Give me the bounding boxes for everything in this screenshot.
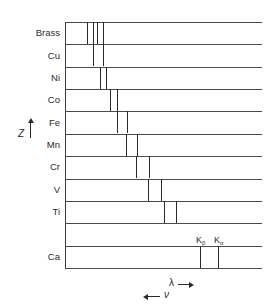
emission-line: [148, 179, 149, 201]
emission-line: [97, 22, 98, 44]
row-divider: [65, 22, 262, 23]
row-divider: [65, 111, 262, 112]
emission-line: [161, 179, 162, 201]
row-divider: [65, 179, 262, 180]
emission-line: [93, 44, 94, 66]
row-divider: [65, 246, 262, 247]
emission-line: [127, 111, 128, 133]
emission-line: [106, 67, 107, 89]
emission-line: [103, 22, 104, 44]
emission-line: [103, 44, 104, 66]
emission-line: [176, 201, 177, 223]
left-axis-line: [65, 22, 66, 268]
emission-line: [149, 156, 150, 178]
row-divider: [65, 67, 262, 68]
emission-line: [110, 89, 111, 111]
emission-line: [164, 201, 165, 223]
row-divider: [65, 223, 262, 224]
row-divider: [65, 134, 262, 135]
element-label: Brass: [0, 28, 60, 38]
nu-arrow-icon: [147, 296, 160, 297]
z-axis-label: Z: [18, 129, 24, 139]
emission-line: [136, 156, 137, 178]
emission-line: [117, 89, 118, 111]
row-divider: [65, 44, 262, 45]
element-label: Ca: [0, 252, 60, 262]
element-label: Cu: [0, 51, 60, 61]
element-label: V: [0, 185, 60, 195]
emission-line: [117, 111, 118, 133]
emission-line: [200, 246, 201, 268]
element-label: Ni: [0, 73, 60, 83]
lambda-arrowhead-icon: [189, 282, 194, 288]
element-label: Mn: [0, 140, 60, 150]
emission-line: [100, 67, 101, 89]
row-divider: [65, 156, 262, 157]
element-label: Co: [0, 95, 60, 105]
emission-line: [137, 134, 138, 156]
row-divider: [65, 89, 262, 90]
element-label: Ti: [0, 207, 60, 217]
emission-line: [126, 134, 127, 156]
row-divider: [65, 268, 262, 269]
nu-arrowhead-icon: [143, 294, 148, 300]
emission-line: [87, 22, 88, 44]
emission-line: [93, 22, 94, 44]
nu-label: ν: [164, 290, 169, 300]
lambda-label: λ: [169, 278, 174, 288]
emission-line: [218, 246, 219, 268]
element-label: Cr: [0, 162, 60, 172]
element-label: Fe: [0, 118, 60, 128]
